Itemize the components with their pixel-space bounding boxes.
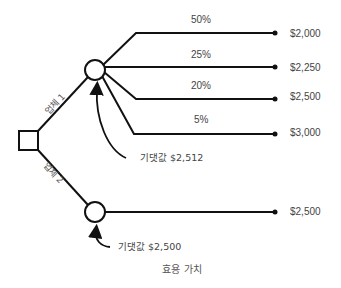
outcome-line-4 [102,76,275,134]
expected-value-arrow-1 [97,88,126,158]
branch-label-2: 업체 2 [42,161,66,186]
probability-label-3: 20% [191,80,211,91]
end-point-2 [273,65,278,70]
probability-label-1: 50% [191,14,211,25]
chance-node-2 [85,202,105,222]
expected-value-arrow-2 [96,231,110,247]
outcome-line-1 [103,33,275,65]
outcome-value-5: $2,500 [290,206,321,217]
probability-label-4: 5% [194,114,209,125]
expected-value-label-2: 기댓값 $2,500 [118,241,181,252]
expected-value-label-1: 기댓값 $2,512 [140,152,203,163]
outcome-value-1: $2,000 [290,28,321,39]
end-point-3 [273,97,278,102]
outcome-value-2: $2,250 [290,62,321,73]
outcome-value-4: $3,000 [290,127,321,138]
decision-node [19,131,38,150]
outcome-value-3: $2,500 [290,91,321,102]
decision-tree-diagram: 업체 1 업체 2 50% 25% 20% 5% $2,000 $2,250 $… [0,0,341,288]
outcome-line-3 [104,72,275,99]
branch-line-1 [38,77,88,131]
end-point-4 [273,132,278,137]
end-point-1 [273,31,278,36]
probability-label-2: 25% [191,49,211,60]
diagram-caption: 효용 가치 [162,264,201,275]
chance-node-1 [85,60,105,80]
end-point-5 [273,210,278,215]
